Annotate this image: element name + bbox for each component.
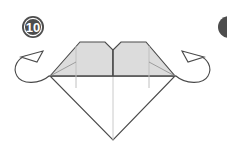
fold-back-arrow-right	[176, 51, 210, 82]
origami-step-diagram: 10	[0, 0, 227, 155]
fold-back-arrow-right-head	[182, 51, 204, 62]
next-step-badge	[218, 16, 227, 38]
step-badge: 10	[22, 16, 44, 38]
fold-back-arrow-left-head	[21, 51, 43, 62]
next-step-badge-circle	[218, 16, 227, 38]
lower-triangle-shape	[50, 76, 175, 140]
diagram-canvas: 10	[0, 0, 227, 155]
step-badge-label: 10	[26, 20, 40, 35]
fold-back-arrow-left	[15, 51, 49, 82]
